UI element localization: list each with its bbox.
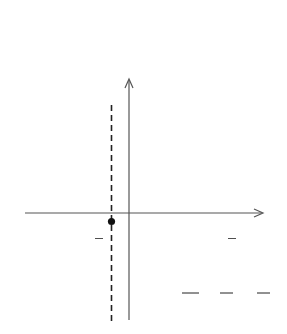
function-graph xyxy=(0,0,287,334)
vertex-point xyxy=(108,218,115,225)
